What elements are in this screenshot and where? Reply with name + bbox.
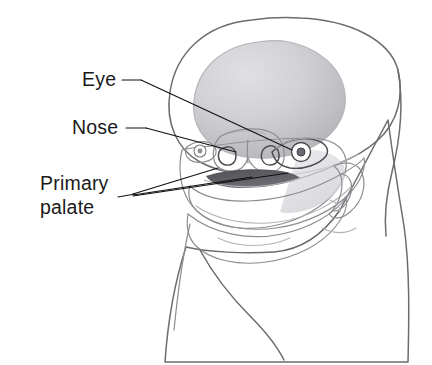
mandible-region	[174, 198, 347, 360]
label-nose: Nose	[72, 116, 118, 138]
label-eye: Eye	[82, 68, 116, 90]
label-primary-palate-line1: Primary	[40, 172, 109, 194]
palate-leader-dash	[118, 194, 135, 197]
anatomy-figure: Eye Nose Primary palate	[0, 0, 432, 365]
labels: Eye Nose Primary palate	[40, 68, 118, 218]
anatomy-illustration: Eye Nose Primary palate	[0, 0, 432, 365]
label-primary-palate-line2: palate	[40, 196, 94, 218]
